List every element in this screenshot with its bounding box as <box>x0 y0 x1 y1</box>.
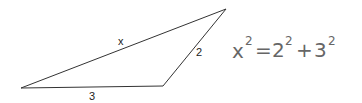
label-2: 2 <box>196 46 202 58</box>
triangle-diagram: x 2 3 x 2 = 2 2 + 3 2 <box>0 0 362 103</box>
eq-3: 3 <box>314 38 327 62</box>
equation: x 2 = 2 2 + 3 2 <box>232 34 336 63</box>
eq-3-exp: 2 <box>328 34 336 48</box>
label-x: x <box>118 35 124 47</box>
eq-2: 2 <box>272 38 285 62</box>
eq-plus: + <box>296 38 313 62</box>
label-3: 3 <box>89 90 95 102</box>
eq-x: x <box>232 39 244 63</box>
eq-x-exp: 2 <box>245 34 253 48</box>
eq-equals: = <box>255 38 272 62</box>
eq-2-exp: 2 <box>285 34 293 48</box>
